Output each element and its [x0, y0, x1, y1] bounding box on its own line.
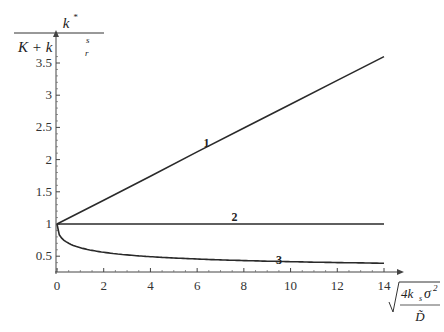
curve-1 [57, 57, 384, 224]
y-label-denominator-sub: r [85, 48, 89, 58]
x-tick-label: 8 [241, 278, 248, 293]
curve-label-2: 2 [232, 210, 238, 224]
y-label-denominator: K + k [17, 39, 53, 55]
y-label-numerator-sup: * [73, 12, 78, 22]
y-axis-label: k * K + k r s [14, 12, 104, 58]
x-axis-label: 4k s σ 2 D̃ [389, 282, 440, 324]
curve-label-3: 3 [276, 253, 282, 267]
curve-label-1: 1 [203, 136, 209, 150]
y-tick-label: 2.5 [36, 119, 52, 134]
x-tick-label: 14 [378, 278, 392, 293]
line-chart: k * K + k r s 024681012140.511.522.533.5… [0, 0, 444, 332]
curve-3 [57, 224, 384, 263]
y-tick-label: 3.5 [36, 55, 52, 70]
y-label-denominator-sup: s [86, 35, 90, 45]
x-tick-label: 12 [331, 278, 344, 293]
x-label-numerator-sub: s [419, 294, 422, 303]
x-tick-label: 0 [54, 278, 61, 293]
x-tick-label: 6 [194, 278, 201, 293]
y-tick-label: 3 [46, 87, 53, 102]
y-tick-label: 2 [46, 152, 53, 167]
x-tick-label: 10 [284, 278, 297, 293]
x-tick-label: 2 [100, 278, 107, 293]
curves [57, 57, 384, 264]
x-label-sigma: σ [424, 286, 432, 301]
x-label-denominator: D̃ [414, 309, 425, 324]
x-axis-arrow-icon [397, 269, 404, 275]
y-label-numerator: k [63, 15, 70, 31]
axes [53, 30, 404, 275]
curve-labels: 123 [203, 136, 281, 267]
y-tick-label: 0.5 [36, 248, 52, 263]
x-tick-label: 4 [147, 278, 154, 293]
x-label-sigma-sup: 2 [433, 283, 438, 293]
x-label-numerator: 4k [401, 286, 414, 301]
axis-ticks: 024681012140.511.522.533.5 [36, 55, 391, 293]
y-tick-label: 1.5 [36, 184, 52, 199]
y-tick-label: 1 [46, 216, 53, 231]
